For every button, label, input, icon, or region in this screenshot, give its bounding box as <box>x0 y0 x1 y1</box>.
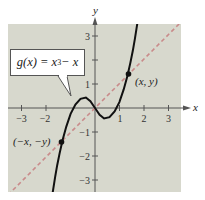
y-tick-label: −3 <box>79 175 90 186</box>
x-axis-arrow-icon <box>183 106 191 111</box>
point-neg-x-neg-y <box>59 139 65 145</box>
x-tick-label: 1 <box>118 113 123 124</box>
y-tick-label: −1 <box>79 127 90 138</box>
x-tick-label: 3 <box>166 113 171 124</box>
chart: −3 −2 1 2 3 3 1 −1 −2 −3 x y (x, y) (−x,… <box>0 0 205 200</box>
x-tick-label: 2 <box>142 113 147 124</box>
point-label-neg: (−x, −y) <box>13 135 51 148</box>
x-tick-label: −3 <box>16 113 27 124</box>
x-axis-label: x <box>192 101 198 113</box>
y-axis-arrow-icon <box>93 17 98 25</box>
callout-text: g(x) = x <box>17 55 57 70</box>
callout-tail: − x <box>61 55 78 70</box>
function-callout: g(x) = x3 − x <box>10 49 85 76</box>
point-x-y <box>126 71 132 77</box>
x-tick-label: −2 <box>40 113 51 124</box>
y-axis-label: y <box>92 4 98 16</box>
y-tick-label: 3 <box>85 31 90 42</box>
y-tick-label: −2 <box>79 151 90 162</box>
y-tick-label: 1 <box>85 79 90 90</box>
point-label-x-y: (x, y) <box>135 75 158 88</box>
callout-joint <box>59 74 67 77</box>
